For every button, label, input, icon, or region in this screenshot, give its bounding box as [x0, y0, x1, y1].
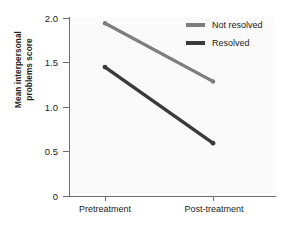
legend-label-resolved: Resolved	[212, 38, 250, 48]
legend-swatch-not-resolved	[186, 23, 205, 26]
legend: Not resolved Resolved	[186, 18, 263, 54]
legend-item-resolved[interactable]: Resolved	[186, 36, 263, 50]
point-resolved-post-treatment	[211, 141, 216, 146]
line-resolved	[105, 67, 213, 143]
legend-item-not-resolved[interactable]: Not resolved	[186, 18, 263, 32]
series-resolved	[103, 65, 216, 146]
point-not-resolved-pretreatment	[103, 21, 107, 25]
chart-container: Mean interpersonal problems score 0 0.5 …	[0, 0, 291, 227]
point-resolved-pretreatment	[103, 65, 108, 70]
legend-label-not-resolved: Not resolved	[212, 20, 263, 30]
legend-swatch-resolved	[186, 41, 205, 44]
point-not-resolved-post-treatment	[211, 79, 215, 83]
